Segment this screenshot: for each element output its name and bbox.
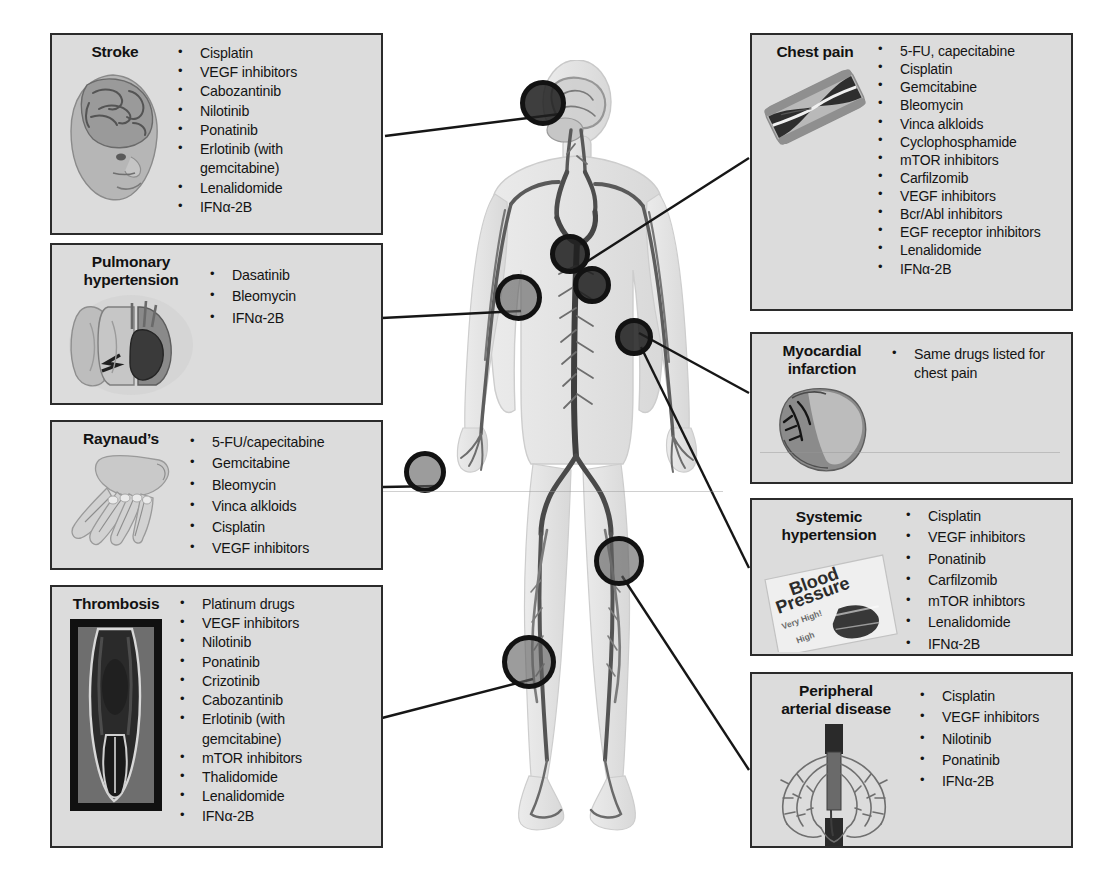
drug-list-item: IFNα-2B <box>174 198 375 217</box>
narrowed-artery-illustration-icon <box>759 65 871 149</box>
drug-list-item: IFNα-2B <box>874 260 1065 278</box>
systemic-hypertension-box: Systemic hypertension Blood Pressure Ver… <box>750 498 1073 656</box>
myocardial-infarction-box: Myocardial infarction <box>750 332 1073 484</box>
human-body-vascular-figure <box>455 60 700 850</box>
drug-list-item: Nilotinib <box>916 729 1065 750</box>
systemic-hypertension-box-title: Systemic hypertension <box>782 508 877 544</box>
drug-list-item: Bleomycin <box>206 286 375 307</box>
drug-list-item: Vinca alkloids <box>186 496 375 517</box>
drug-list-item: Vinca alkloids <box>874 115 1065 133</box>
drug-list-item: IFNα-2B <box>916 771 1065 792</box>
drug-list-item: VEGF inhibitors <box>174 63 375 82</box>
myocardial-infarction-box-title: Myocardial infarction <box>783 342 862 378</box>
drug-list-item: Nilotinib <box>176 633 375 652</box>
pulmonary-hypertension-box-title: Pulmonary hypertension <box>84 253 179 289</box>
myocardial-infarction-drug-list: Same drugs listed for chest pain <box>888 345 1065 383</box>
blood-pressure-gauge-icon: Blood Pressure Very High! High <box>759 548 899 652</box>
drug-list-item: IFNα-2B <box>176 807 375 826</box>
drug-list-item: IFNα-2B <box>902 634 1065 655</box>
peripheral-arterial-disease-drug-list: CisplatinVEGF inhibitorsNilotinibPonatin… <box>916 686 1065 792</box>
drug-list-item: Ponatinib <box>176 653 375 672</box>
drug-list-item: Crizotinib <box>176 672 375 691</box>
drug-list-item: EGF receptor inhibitors <box>874 223 1065 241</box>
pulmonary-hypertension-box: Pulmonary hypertension <box>50 243 383 405</box>
drug-list-item: mTOR inhibitors <box>176 749 375 768</box>
chest-pain-box-title: Chest pain <box>776 43 853 61</box>
drug-list-item: Erlotinib (with gemcitabine) <box>174 140 375 178</box>
drug-list-item: Ponatinib <box>902 549 1065 570</box>
figure-canvas: Stroke <box>0 0 1110 875</box>
marker-upper-arm-artery <box>615 318 653 356</box>
heart-photo-icon <box>768 382 876 474</box>
drug-list-item: Cabozantinib <box>176 691 375 710</box>
pulmonary-hypertension-drug-list: DasatinibBleomycinIFNα-2B <box>206 265 375 329</box>
drug-list-item: Gemcitabine <box>874 78 1065 96</box>
drug-list-item: Erlotinib (with gemcitabine) <box>176 710 375 748</box>
thrombosed-vein-photo-icon <box>68 617 164 813</box>
drug-list-item: Gemcitabine <box>186 453 375 474</box>
drug-list-item: Carfilzomib <box>902 570 1065 591</box>
hand-illustration-icon <box>63 452 179 548</box>
drug-list-item: Cisplatin <box>874 60 1065 78</box>
chest-pain-box: Chest pain <box>750 33 1073 311</box>
drug-list-item: Lenalidomide <box>176 787 375 806</box>
drug-list-item: VEGF inhibitors <box>874 187 1065 205</box>
systemic-hypertension-drug-list: CisplatinVEGF inhibitorsPonatinibCarfilz… <box>902 506 1065 655</box>
drug-list-item: Carfilzomib <box>874 169 1065 187</box>
thrombosis-drug-list: Platinum drugsVEGF inhibitorsNilotinibPo… <box>176 595 375 826</box>
marker-thigh-artery <box>594 536 644 586</box>
drug-list-item: Nilotinib <box>174 102 375 121</box>
head-brain-illustration-icon <box>63 65 167 213</box>
thrombosis-box: Thrombosis Platinum drugsVEGF inhi <box>50 585 383 848</box>
raynauds-box-title: Raynaud’s <box>83 430 159 448</box>
drug-list-item: VEGF inhibitors <box>902 527 1065 548</box>
drug-list-item: Ponatinib <box>916 750 1065 771</box>
peripheral-arterial-disease-box-title: Peripheral arterial disease <box>781 682 891 718</box>
angiogram-arteries-illustration-icon <box>773 722 899 848</box>
drug-list-item: Bleomycin <box>874 96 1065 114</box>
stroke-box: Stroke <box>50 33 383 235</box>
drug-list-item: VEGF inhibitors <box>916 707 1065 728</box>
raynauds-drug-list: 5-FU/capecitabineGemcitabineBleomycinVin… <box>186 432 375 560</box>
drug-list-item: VEGF inhibitors <box>186 538 375 559</box>
drug-list-item: 5-FU, capecitabine <box>874 42 1065 60</box>
marker-brain <box>520 80 566 126</box>
stroke-drug-list: CisplatinVEGF inhibitorsCabozantinibNilo… <box>174 44 375 217</box>
raynauds-box: Raynaud’s <box>50 420 383 570</box>
drug-list-item: Cisplatin <box>902 506 1065 527</box>
drug-list-item: Cisplatin <box>186 517 375 538</box>
drug-list-item: Platinum drugs <box>176 595 375 614</box>
drug-list-item: Cisplatin <box>916 686 1065 707</box>
peripheral-arterial-disease-box: Peripheral arterial disease <box>750 672 1073 848</box>
drug-list-item: Lenalidomide <box>902 612 1065 633</box>
drug-list-item: Bcr/Abl inhibitors <box>874 205 1065 223</box>
drug-list-item: mTOR inhibitors <box>874 151 1065 169</box>
marker-lower-leg-vein <box>502 635 556 689</box>
drug-list-item: 5-FU/capecitabine <box>186 432 375 453</box>
drug-list-item: Same drugs listed for chest pain <box>888 345 1065 383</box>
stroke-box-title: Stroke <box>91 43 138 61</box>
thrombosis-box-title: Thrombosis <box>73 595 160 613</box>
drug-list-item: Cisplatin <box>174 44 375 63</box>
marker-hand <box>404 451 446 493</box>
marker-heart <box>573 266 611 304</box>
chest-pain-drug-list: 5-FU, capecitabineCisplatinGemcitabineBl… <box>874 42 1065 278</box>
marker-lung <box>495 274 542 321</box>
drug-list-item: Thalidomide <box>176 768 375 787</box>
drug-list-item: IFNα-2B <box>206 308 375 329</box>
drug-list-item: VEGF inhibitors <box>176 614 375 633</box>
drug-list-item: Bleomycin <box>186 475 375 496</box>
drug-list-item: Cabozantinib <box>174 82 375 101</box>
drug-list-item: Ponatinib <box>174 121 375 140</box>
drug-list-item: mTOR inhibtors <box>902 591 1065 612</box>
lungs-heart-illustration-icon <box>62 293 200 397</box>
drug-list-item: Dasatinib <box>206 265 375 286</box>
drug-list-item: Lenalidomide <box>874 241 1065 259</box>
drug-list-item: Lenalidomide <box>174 179 375 198</box>
drug-list-item: Cyclophosphamide <box>874 133 1065 151</box>
